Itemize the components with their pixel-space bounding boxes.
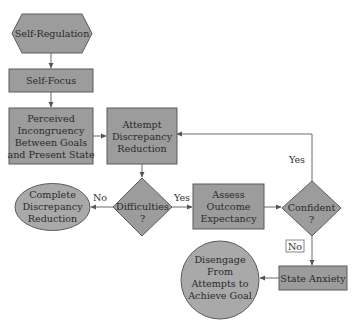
node-attempt-line-3: Reduction — [117, 143, 166, 154]
node-self-regulation-label: Self-Regulation — [15, 28, 90, 39]
node-disengage-line-3: Attempts to — [191, 278, 249, 289]
node-disengage: Disengage From Attempts to Achieve Goal — [181, 241, 259, 319]
node-self-regulation: Self-Regulation — [12, 14, 92, 53]
edge-label-difficulties-yes: Yes — [173, 192, 190, 203]
node-assess-line-2: Outcome — [207, 201, 251, 212]
node-perceived-line-3: Between Goals — [15, 137, 88, 148]
node-complete-discrepancy-reduction: Complete Discrepancy Reduction — [15, 184, 90, 231]
self-regulation-flowchart: No Yes Yes No Self-Regulation Self-Focus… — [0, 0, 356, 325]
node-complete-line-2: Discrepancy — [22, 201, 83, 212]
node-confident-line-2: ? — [309, 214, 314, 225]
node-assess-outcome-expectancy: Assess Outcome Expectancy — [193, 184, 264, 229]
node-state-anxiety-label: State Anxiety — [280, 273, 346, 284]
edge-label-confident-yes: Yes — [288, 154, 305, 165]
node-perceived-line-1: Perceived — [27, 113, 75, 124]
node-disengage-line-1: Disengage — [194, 254, 246, 265]
node-difficulties-decision: Difficulties ? — [113, 178, 172, 236]
node-state-anxiety: State Anxiety — [279, 266, 347, 290]
node-disengage-line-2: From — [207, 266, 233, 277]
node-attempt-line-2: Discrepancy — [112, 131, 173, 142]
node-complete-line-3: Reduction — [28, 213, 77, 224]
node-difficulties-line-2: ? — [140, 213, 145, 224]
edge-label-difficulties-no: No — [93, 192, 107, 203]
node-perceived-incongruency: Perceived Incongruency Between Goals and… — [7, 108, 94, 164]
node-assess-line-3: Expectancy — [200, 213, 257, 224]
node-difficulties-line-1: Difficulties — [116, 201, 169, 212]
node-confident-decision: Confident ? — [282, 181, 341, 236]
node-complete-line-1: Complete — [29, 189, 76, 200]
node-assess-line-1: Assess — [211, 189, 244, 200]
node-self-focus: Self-Focus — [9, 69, 93, 92]
node-perceived-line-2: Incongruency — [18, 125, 85, 136]
node-perceived-line-4: and Present State — [7, 149, 94, 160]
node-disengage-line-4: Achieve Goal — [187, 290, 252, 301]
edge-label-confident-no: No — [288, 241, 302, 252]
node-attempt-line-1: Attempt — [121, 119, 161, 130]
edge-label-confident-no-box: No — [286, 240, 304, 252]
node-self-focus-label: Self-Focus — [26, 75, 76, 86]
node-confident-line-1: Confident — [288, 202, 336, 213]
node-attempt-discrepancy-reduction: Attempt Discrepancy Reduction — [107, 108, 177, 164]
